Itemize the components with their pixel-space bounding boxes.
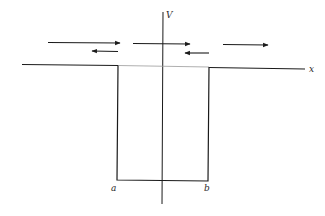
x-axis-label: x (309, 64, 314, 74)
well-top-line (118, 66, 209, 68)
right-edge-label-b: b (204, 183, 210, 193)
v-axis (162, 12, 163, 204)
potential-right-segment (209, 68, 305, 70)
potential-well-diagram: V x a b (0, 0, 325, 216)
left-edge-label-a: a (111, 183, 116, 193)
right-moving-arrow-inside-well (133, 44, 190, 45)
transmitted-arrow-right-region (223, 45, 268, 46)
reflected-arrow-left-region (92, 51, 118, 52)
incident-arrow-left-region (48, 43, 120, 44)
v-axis-label: V (166, 10, 174, 20)
potential-left-segment (22, 65, 118, 66)
